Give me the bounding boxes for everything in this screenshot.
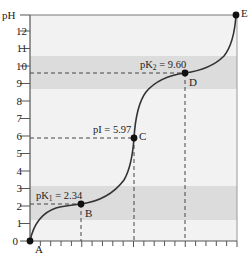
point-d [182,70,189,77]
y-label-1: 1 [17,217,23,229]
point-e [233,12,240,19]
y-label-11: 11 [16,42,27,54]
y-label-8: 8 [17,95,23,107]
point-a [27,238,34,245]
pi-annotation: pI = 5.97 [93,124,131,135]
y-label-7: 7 [17,112,23,124]
y-label-4: 4 [17,165,23,177]
y-axis-title: pH [2,9,16,21]
point-b [78,201,85,208]
point-c [131,135,138,142]
y-label-2: 2 [17,200,23,212]
y-label-0: 0 [13,235,19,247]
point-a-label: A [35,243,43,255]
point-d-label: D [189,76,197,88]
point-b-label: B [85,207,92,219]
x-ticks [40,241,237,247]
y-label-10: 10 [16,60,28,72]
point-c-label: C [139,130,146,142]
y-label-12: 12 [16,25,27,37]
y-label-6: 6 [17,130,23,142]
y-label-3: 3 [17,182,23,194]
y-label-5: 5 [17,147,23,159]
point-e-label: E [241,7,248,19]
y-label-9: 9 [17,77,23,89]
titration-chart: 0 1 2 3 4 5 6 7 8 9 10 11 12 pH A B C D … [0,0,252,258]
